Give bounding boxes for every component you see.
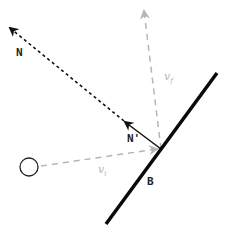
reflection-diagram: N N' B vf vi xyxy=(0,0,236,238)
label-v-initial: vi xyxy=(98,163,106,178)
ball-circle xyxy=(20,158,38,176)
label-normal: N xyxy=(16,46,23,59)
v-final-vector xyxy=(144,11,161,149)
label-normal-prime: N' xyxy=(127,132,140,145)
label-v-final: vf xyxy=(164,70,174,85)
normal-vector xyxy=(10,28,124,121)
wall-line xyxy=(106,73,217,224)
label-wall: B xyxy=(147,175,154,188)
